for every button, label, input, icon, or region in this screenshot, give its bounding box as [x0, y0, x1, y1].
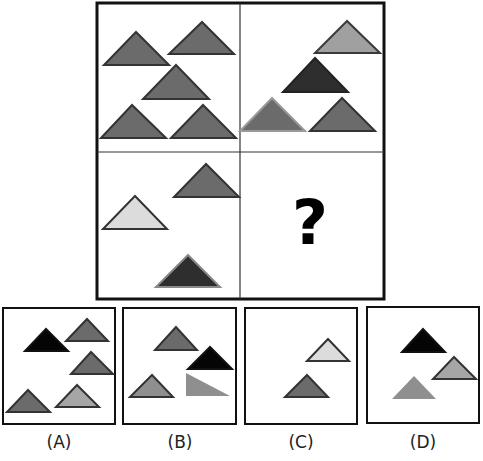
option-b-label[interactable]: (B): [150, 432, 210, 452]
puzzle-canvas: [0, 0, 483, 461]
options: [3, 307, 479, 424]
option-d-label[interactable]: (D): [393, 432, 453, 452]
option-a-label[interactable]: (A): [29, 432, 89, 452]
main-grid: [97, 3, 384, 299]
option-c-label[interactable]: (C): [271, 432, 331, 452]
option-c-box[interactable]: [245, 308, 357, 424]
question-mark: ?: [292, 192, 328, 254]
